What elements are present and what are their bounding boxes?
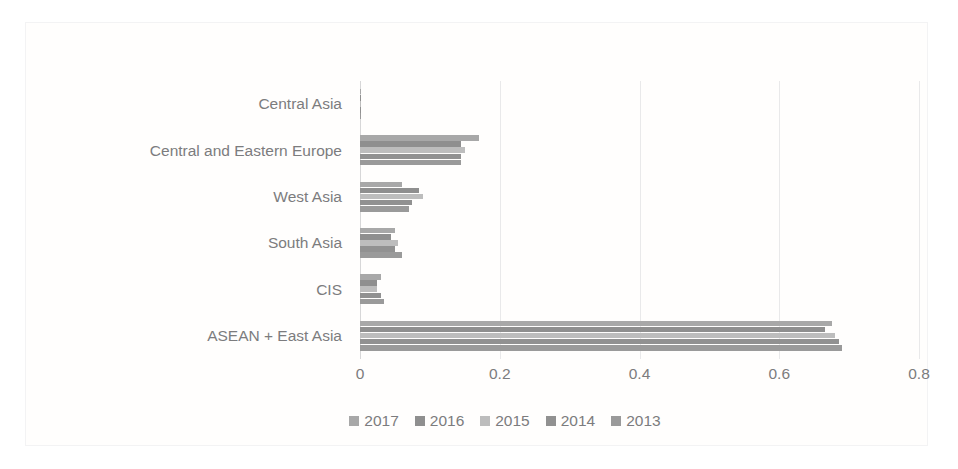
bar <box>360 240 398 246</box>
bar <box>360 234 391 240</box>
legend-swatch-icon <box>415 416 425 426</box>
bar <box>360 160 461 166</box>
bar <box>360 321 832 327</box>
category-label: Central Asia <box>26 96 352 112</box>
legend-item[interactable]: 2014 <box>546 413 595 429</box>
category-label: ASEAN + East Asia <box>26 328 352 344</box>
bar <box>360 228 395 234</box>
bar <box>360 194 423 200</box>
axis-tick-label: 0.2 <box>489 365 511 383</box>
legend-label: 2013 <box>626 413 660 429</box>
bar <box>360 141 461 147</box>
category-label: South Asia <box>26 235 352 251</box>
axis-tick-label: 0.4 <box>629 365 651 383</box>
bar <box>360 188 419 194</box>
gridline <box>919 81 920 359</box>
bar-group <box>360 220 919 266</box>
bar-group <box>360 313 919 359</box>
bar-group <box>360 127 919 173</box>
bar <box>360 286 377 292</box>
chart-legend: 20172016201520142013 <box>26 413 958 429</box>
category-label: West Asia <box>26 189 352 205</box>
bar <box>360 95 361 101</box>
bar <box>360 327 825 333</box>
axis-tick-label: 0.6 <box>768 365 790 383</box>
chart-frame: Central AsiaCentral and Eastern EuropeWe… <box>25 22 928 446</box>
legend-item[interactable]: 2017 <box>349 413 398 429</box>
legend-label: 2014 <box>561 413 595 429</box>
legend-item[interactable]: 2015 <box>480 413 529 429</box>
legend-swatch-icon <box>349 416 359 426</box>
legend-label: 2017 <box>364 413 398 429</box>
bar <box>360 274 381 280</box>
bar <box>360 333 835 339</box>
category-label: CIS <box>26 282 352 298</box>
bar <box>360 113 361 119</box>
bar <box>360 280 377 286</box>
category-label: Central and Eastern Europe <box>26 143 352 159</box>
bar <box>360 154 461 160</box>
bar <box>360 200 412 206</box>
legend-item[interactable]: 2013 <box>611 413 660 429</box>
legend-item[interactable]: 2016 <box>415 413 464 429</box>
legend-swatch-icon <box>480 416 490 426</box>
bar <box>360 135 479 141</box>
bar-group <box>360 81 919 127</box>
bar-group <box>360 174 919 220</box>
axis-tick-label: 0.8 <box>908 365 930 383</box>
legend-swatch-icon <box>611 416 621 426</box>
plot-area <box>360 81 919 359</box>
category-axis-labels: Central AsiaCentral and Eastern EuropeWe… <box>26 81 352 359</box>
bar <box>360 339 839 345</box>
bar <box>360 182 402 188</box>
legend-label: 2015 <box>495 413 529 429</box>
bar <box>360 246 395 252</box>
bar <box>360 345 842 351</box>
bar <box>360 299 384 305</box>
bar <box>360 293 381 299</box>
bar <box>360 206 409 212</box>
bar <box>360 101 361 107</box>
axis-tick-label: 0 <box>356 365 365 383</box>
legend-label: 2016 <box>430 413 464 429</box>
bar <box>360 252 402 258</box>
value-axis-tick-labels: 00.20.40.60.8 <box>360 365 919 391</box>
bar <box>360 147 465 153</box>
legend-swatch-icon <box>546 416 556 426</box>
bar <box>360 89 361 95</box>
bar <box>360 107 361 113</box>
bar-group <box>360 266 919 312</box>
